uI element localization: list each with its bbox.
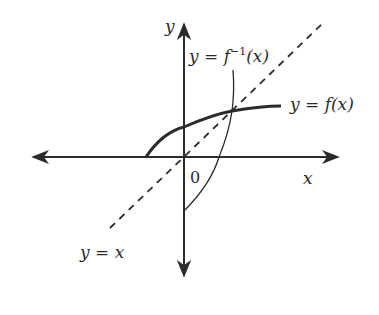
f-inverse-superscript: −1: [230, 45, 246, 58]
y-axis-label: y: [165, 18, 175, 35]
f-inverse-curve: [184, 70, 234, 211]
f-curve: [146, 106, 281, 157]
f-inverse-label: y = f−1(x): [189, 46, 269, 65]
origin-label: 0: [190, 170, 200, 186]
x-axis-label: x: [303, 170, 313, 187]
f-label: y = f(x): [290, 96, 354, 113]
f-inverse-label-tail: (x): [246, 46, 269, 66]
inverse-function-diagram: y x 0 y = f−1(x) y = f(x) y = x: [0, 0, 379, 315]
f-inverse-label-main: y = f: [189, 46, 230, 66]
identity-label: y = x: [80, 244, 124, 261]
